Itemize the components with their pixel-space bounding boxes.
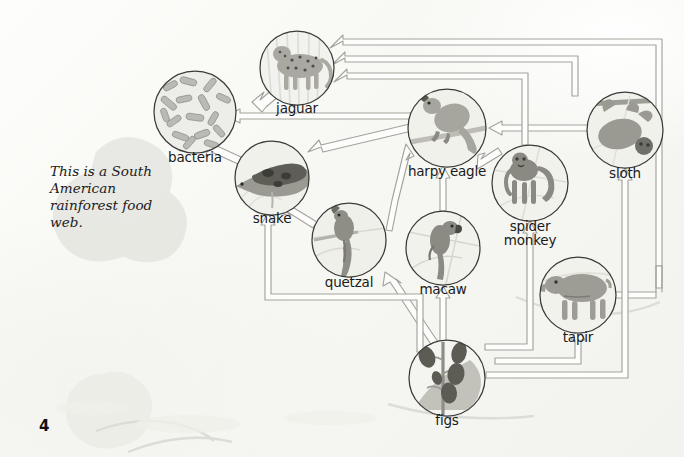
label-macaw: macaw [393,282,493,297]
label-harpy-eagle: harpy eagle [387,164,507,179]
label-spider-monkey: spider monkey [480,219,580,247]
page-caption: This is a South American rainforest food… [50,163,162,232]
organism-tapir[interactable] [539,257,616,333]
textbook-page: .pipe{fill:#fdfdfb;stroke:#a3a39e;stroke… [0,0,684,457]
label-sloth: sloth [575,166,675,181]
organism-figs[interactable] [409,340,485,416]
label-jaguar: jaguar [247,101,347,116]
organism-macaw[interactable] [406,211,480,285]
organism-sloth[interactable] [587,92,663,168]
label-snake: snake [222,211,322,226]
organism-harpy-eagle[interactable] [408,89,486,167]
organism-jaguar[interactable] [260,31,334,105]
page-number: 4 [39,417,49,435]
label-tapir: tapir [528,330,628,345]
organism-bacteria[interactable] [154,71,236,153]
label-figs: figs [397,413,497,428]
organism-quetzal[interactable] [312,203,386,278]
label-quetzal: quetzal [299,275,399,290]
organism-spider-monkey[interactable] [492,145,568,221]
